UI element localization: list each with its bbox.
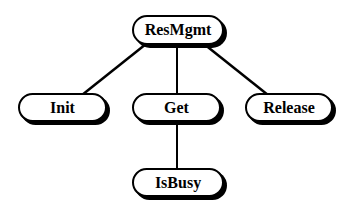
node-label: Release bbox=[263, 99, 315, 117]
node-resmgmt: ResMgmt bbox=[132, 15, 224, 45]
node-release: Release bbox=[245, 93, 333, 122]
node-label: ResMgmt bbox=[145, 21, 212, 39]
node-label: IsBusy bbox=[155, 174, 201, 192]
node-init: Init bbox=[18, 93, 107, 122]
node-label: Init bbox=[50, 99, 75, 117]
node-isbusy: IsBusy bbox=[132, 168, 224, 197]
node-label: Get bbox=[164, 99, 189, 117]
node-get: Get bbox=[132, 93, 221, 122]
edge-resmgmt-release bbox=[204, 44, 268, 95]
edge-resmgmt-init bbox=[82, 44, 146, 95]
